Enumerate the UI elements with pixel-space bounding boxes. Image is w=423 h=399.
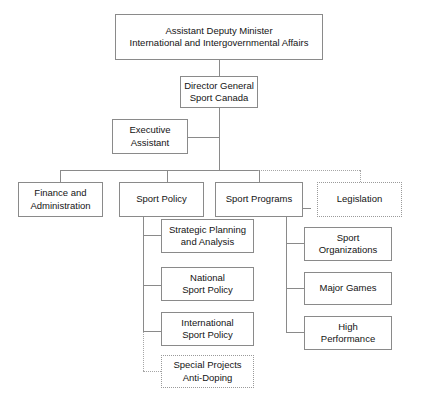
connector-major-games	[286, 288, 304, 289]
connector-strategic-planning	[143, 235, 161, 236]
node-sport-programs[interactable]: Sport Programs	[215, 182, 303, 217]
node-label: National Sport Policy	[182, 272, 233, 297]
connector-drop-finance	[60, 170, 61, 182]
node-label: Strategic Planning and Analysis	[169, 224, 246, 249]
connector-dg-to-distributor	[219, 108, 220, 170]
node-strategic-planning-and-analysis[interactable]: Strategic Planning and Analysis	[161, 219, 254, 253]
org-chart: Assistant Deputy Minister International …	[0, 0, 423, 399]
node-director-general[interactable]: Director General Sport Canada	[180, 76, 258, 108]
connector-drop-sport-policy	[167, 170, 168, 182]
node-label: Legislation	[337, 193, 382, 206]
node-label: Assistant Deputy Minister International …	[130, 25, 309, 50]
distributor-bar	[60, 170, 260, 171]
node-finance-and-administration[interactable]: Finance and Administration	[18, 182, 103, 217]
node-label: Sport Organizations	[319, 232, 378, 257]
node-label: High Performance	[321, 321, 375, 346]
connector-sport-organizations	[286, 243, 304, 244]
connector-sport-policy-spine	[143, 208, 144, 333]
node-legislation[interactable]: Legislation	[317, 182, 402, 217]
node-high-performance[interactable]: High Performance	[304, 316, 392, 350]
node-assistant-deputy-minister[interactable]: Assistant Deputy Minister International …	[115, 14, 323, 60]
node-label: Executive Assistant	[129, 124, 170, 149]
node-international-sport-policy[interactable]: International Sport Policy	[161, 312, 254, 346]
connector-sport-policy-spine-dotted	[143, 332, 144, 371]
connector-international-sport-policy	[143, 331, 161, 332]
connector-special-projects	[143, 371, 161, 372]
connector-exec-assistant	[188, 137, 220, 138]
distributor-bar-dotted	[258, 170, 360, 171]
node-major-games[interactable]: Major Games	[304, 272, 392, 305]
connector-drop-sport-programs	[259, 170, 260, 182]
connector-high-performance	[286, 332, 304, 333]
node-label: International Sport Policy	[181, 317, 233, 342]
node-executive-assistant[interactable]: Executive Assistant	[112, 119, 188, 154]
connector-adm-to-dg	[219, 60, 220, 76]
node-label: Director General Sport Canada	[184, 80, 254, 105]
connector-national-sport-policy	[143, 285, 161, 286]
node-label: Major Games	[319, 282, 376, 295]
node-special-projects-anti-doping[interactable]: Special Projects Anti-Doping	[161, 355, 254, 388]
node-label: Sport Policy	[136, 193, 187, 206]
node-national-sport-policy[interactable]: National Sport Policy	[161, 267, 254, 301]
node-sport-policy[interactable]: Sport Policy	[119, 182, 204, 217]
connector-drop-legislation	[360, 170, 361, 182]
node-label: Special Projects Anti-Doping	[173, 359, 241, 384]
node-label: Sport Programs	[226, 193, 293, 206]
node-sport-organizations[interactable]: Sport Organizations	[304, 227, 392, 261]
node-label: Finance and Administration	[30, 187, 90, 212]
connector-sport-programs-spine	[286, 208, 287, 333]
